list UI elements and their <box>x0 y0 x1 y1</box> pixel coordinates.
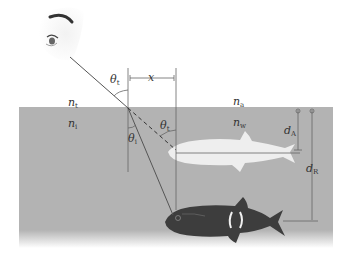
n-a-label: na <box>233 96 244 109</box>
eye-icon <box>38 7 84 60</box>
diagram-canvas <box>0 0 349 260</box>
n-w-label: nw <box>233 117 246 130</box>
theta-t-label-air: θt <box>110 74 119 87</box>
theta-i-label: θi <box>128 133 137 146</box>
water-fade <box>19 230 333 248</box>
theta-t-label-water: θt <box>160 120 169 133</box>
d-a-label: dA <box>284 125 296 138</box>
n-i-label: ni <box>68 118 77 131</box>
d-r-label: dR <box>306 163 318 176</box>
x-label: x <box>148 72 154 83</box>
refraction-diagram: θt x nt ni θi θt na nw dA dR <box>0 0 349 260</box>
n-t-label: nt <box>68 97 78 110</box>
